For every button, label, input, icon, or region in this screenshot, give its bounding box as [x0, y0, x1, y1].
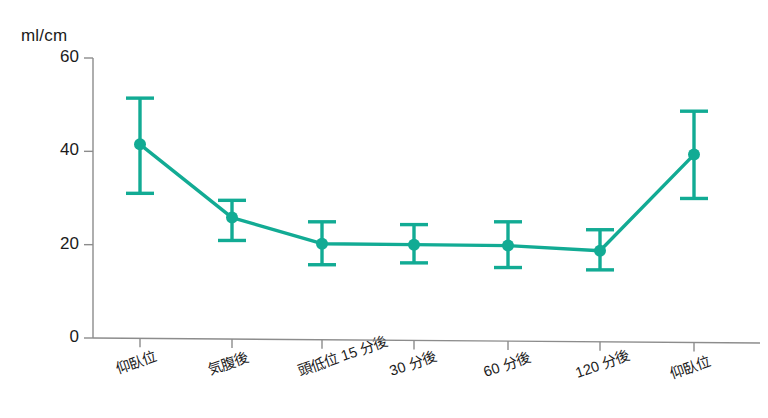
data-point-marker — [688, 149, 700, 161]
data-series-group — [126, 98, 708, 270]
data-point-marker — [226, 212, 238, 224]
data-point-marker — [408, 239, 420, 251]
chart-axes — [84, 58, 760, 352]
data-point-marker — [502, 240, 514, 252]
x-axis-line — [93, 338, 760, 343]
data-point-marker — [316, 238, 328, 250]
chart-root: ml/cm 0204060 仰臥位気腹後頭低位 15 分後30 分後60 分後1… — [0, 0, 768, 418]
series-line — [140, 144, 694, 250]
data-point-marker — [594, 245, 606, 257]
data-point-marker — [134, 138, 146, 150]
line-chart-plot — [0, 0, 768, 418]
